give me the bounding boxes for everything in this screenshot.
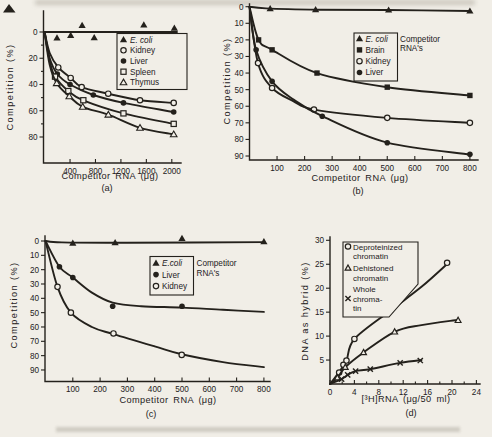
four-panel-figure: 020406080400800120016002000Competitor RN… — [0, 0, 492, 437]
y-tick-label: 15 — [315, 308, 325, 317]
x-tick-label: 200 — [93, 385, 107, 394]
legend-label: Liver — [130, 57, 148, 66]
y-tick-label: 20 — [315, 284, 325, 293]
legend-side-text: RNA's — [400, 44, 423, 53]
legend-label: tin — [353, 304, 361, 313]
x-tick-label: 200 — [298, 164, 312, 173]
y-tick-label: 60 — [28, 107, 38, 116]
panel-d-ylabel: DNA as hybrid (%) — [300, 261, 310, 360]
legend-label: E.coli — [162, 259, 182, 268]
panel-a-legend: E. coliKidneyLiverSpleenThymus — [117, 34, 187, 90]
panel-d: 5101520253004812162024[³H]RNA (μg/50 ml)… — [300, 236, 482, 418]
x-tick-label: 4 — [352, 388, 357, 397]
y-tick-label: 20 — [234, 36, 244, 45]
legend-label: Deproteinized — [353, 243, 402, 252]
x-tick-label: 800 — [257, 385, 271, 394]
panel-a-ylabel: Competition (%) — [5, 44, 15, 131]
x-tick-label: 100 — [66, 385, 80, 394]
panel-d-xlabel: [³H]RNA (μg/50 ml) — [362, 394, 451, 404]
y-tick-label: 60 — [30, 323, 40, 332]
y-tick-label: 40 — [28, 80, 38, 89]
y-tick-label: 70 — [30, 337, 40, 346]
y-tick-label: 80 — [234, 135, 244, 144]
y-tick-label: 70 — [234, 119, 244, 128]
y-tick-label: 80 — [30, 352, 40, 361]
legend-label: Kidney — [366, 57, 392, 66]
legend-label: chromatin — [353, 252, 388, 261]
panel-c-series-e-coli — [46, 235, 268, 246]
figure-canvas: 020406080400800120016002000Competitor RN… — [0, 0, 492, 437]
legend-label: Liver — [162, 271, 180, 280]
panel-c: 0102030405060708090100200300400500600700… — [9, 235, 272, 419]
panel-c-xlabel: Competitor RNA (μg) — [119, 395, 216, 405]
legend-label: Whole — [353, 285, 376, 294]
legend-label: E. coli — [366, 35, 388, 44]
legend-label: Dehistoned — [353, 264, 393, 273]
stray-triangle-mark — [3, 4, 16, 13]
y-tick-label: 30 — [30, 280, 40, 289]
legend-label: Kidney — [162, 282, 188, 291]
x-tick-label: 600 — [408, 164, 422, 173]
panel-a-tag: (a) — [101, 183, 112, 193]
y-tick-label: 0 — [34, 237, 39, 246]
y-tick-label: 40 — [30, 294, 40, 303]
panel-a: 020406080400800120016002000Competitor RN… — [5, 11, 187, 193]
y-tick-label: 50 — [234, 86, 244, 95]
legend-label: E. coli — [130, 36, 152, 45]
legend-label: Thymus — [130, 78, 159, 87]
x-tick-label: 700 — [230, 385, 244, 394]
legend-label: Brain — [366, 46, 386, 55]
y-tick-label: 10 — [315, 332, 325, 341]
x-tick-label: 800 — [463, 164, 477, 173]
panel-b: 0102030405060708090100200300400500600700… — [222, 3, 479, 196]
legend-label: Spleen — [130, 68, 156, 77]
y-tick-label: 5 — [319, 356, 324, 365]
panel-b-xlabel: Competitor RNA (μg) — [311, 173, 408, 183]
y-tick-label: 40 — [234, 69, 244, 78]
x-tick-label: 500 — [175, 385, 189, 394]
legend-label: Kidney — [130, 46, 156, 55]
x-tick-label: 100 — [270, 164, 284, 173]
legend-side-text: Competitor — [400, 35, 440, 44]
panel-c-tag: (c) — [146, 409, 157, 419]
y-tick-label: 30 — [234, 52, 244, 61]
y-tick-label: 90 — [30, 366, 40, 375]
y-tick-label: 20 — [30, 266, 40, 275]
panel-b-ylabel: Competition (%) — [222, 38, 232, 125]
panel-b-series-e-coli — [250, 5, 474, 14]
panel-b-series-liver — [250, 7, 473, 157]
panel-a-xlabel: Competitor RNA (μg) — [61, 171, 158, 181]
x-tick-label: 2000 — [163, 167, 182, 176]
y-tick-label: 50 — [30, 309, 40, 318]
y-tick-label: 10 — [234, 19, 244, 28]
x-tick-label: 300 — [121, 385, 135, 394]
panel-d-legend: DeproteinizedchromatinDehistonedchromati… — [343, 242, 418, 317]
panel-b-tag: (b) — [352, 186, 363, 196]
x-tick-label: 0 — [328, 388, 333, 397]
x-tick-label: 500 — [380, 164, 394, 173]
y-tick-label: 90 — [234, 152, 244, 161]
y-tick-label: 0 — [239, 3, 244, 12]
legend-side-text: RNA's — [197, 269, 220, 278]
y-tick-label: 10 — [30, 251, 40, 260]
x-tick-label: 600 — [202, 385, 216, 394]
panel-c-legend: E.coliLiverKidneyCompetitorRNA's — [150, 257, 237, 296]
x-tick-label: 400 — [148, 385, 162, 394]
panel-b-legend: E. coliBrainKidneyLiverCompetitorRNA's — [354, 33, 440, 81]
y-tick-label: 30 — [315, 236, 325, 245]
x-tick-label: 24 — [472, 388, 482, 397]
y-tick-label: 25 — [315, 260, 325, 269]
x-tick-label: 300 — [325, 164, 339, 173]
panel-d-tag: (d) — [405, 408, 416, 418]
panel-c-ylabel: Competition (%) — [9, 262, 19, 349]
legend-label: Liver — [366, 68, 384, 77]
y-tick-label: 80 — [28, 133, 38, 142]
y-tick-label: 60 — [234, 102, 244, 111]
legend-label: chroma- — [353, 295, 383, 304]
panel-b-axes — [250, 4, 479, 160]
legend-side-text: Competitor — [197, 259, 237, 268]
x-tick-label: 400 — [353, 164, 367, 173]
x-tick-label: 700 — [436, 164, 450, 173]
legend-label: chromatin — [353, 274, 388, 283]
y-tick-label: 0 — [33, 28, 38, 37]
